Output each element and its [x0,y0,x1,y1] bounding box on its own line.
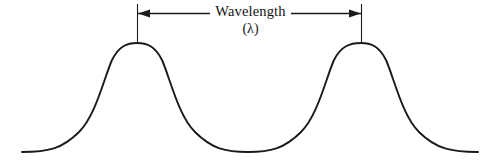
lambda-symbol-label: (λ) [0,22,497,36]
wavelength-diagram: Wavelength (λ) [0,0,497,166]
label-layer: Wavelength (λ) [0,0,497,166]
lambda-symbol-text: (λ) [242,22,258,36]
wavelength-label: Wavelength [0,4,497,19]
wavelength-label-text: Wavelength [210,4,290,19]
